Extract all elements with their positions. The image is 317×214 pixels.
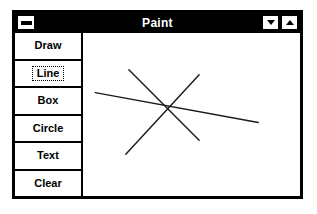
minimize-box-icon <box>21 21 32 25</box>
client-area: Draw Line Box Circle Text Clear <box>15 33 300 196</box>
triangle-up-icon <box>286 20 294 25</box>
tool-button-clear[interactable]: Clear <box>15 171 81 197</box>
tool-button-box[interactable]: Box <box>15 88 81 116</box>
triangle-down-icon <box>267 20 275 25</box>
drawing-canvas[interactable] <box>83 33 300 196</box>
tool-button-text-label: Text <box>34 149 62 162</box>
tool-button-box-label: Box <box>35 94 62 107</box>
tool-button-clear-label: Clear <box>31 177 65 190</box>
tool-button-draw-label: Draw <box>32 39 65 52</box>
tool-button-draw[interactable]: Draw <box>15 33 81 61</box>
line-diagonal-up <box>126 75 199 155</box>
system-menu-button[interactable] <box>17 15 35 30</box>
canvas-surface[interactable] <box>83 33 300 196</box>
tool-button-circle[interactable]: Circle <box>15 116 81 144</box>
window-controls <box>262 15 298 30</box>
title-bar: Paint <box>15 13 300 33</box>
window-title: Paint <box>142 17 173 29</box>
line-diagonal-down <box>129 70 199 141</box>
minimize-button[interactable] <box>262 15 279 30</box>
tool-button-line[interactable]: Line <box>15 61 81 89</box>
paint-window: Paint Draw Line Box Circle <box>12 10 303 199</box>
maximize-button[interactable] <box>281 15 298 30</box>
tool-button-circle-label: Circle <box>30 122 67 135</box>
tool-button-line-label: Line <box>32 66 65 81</box>
tool-button-text[interactable]: Text <box>15 143 81 171</box>
tool-panel: Draw Line Box Circle Text Clear <box>15 33 83 196</box>
